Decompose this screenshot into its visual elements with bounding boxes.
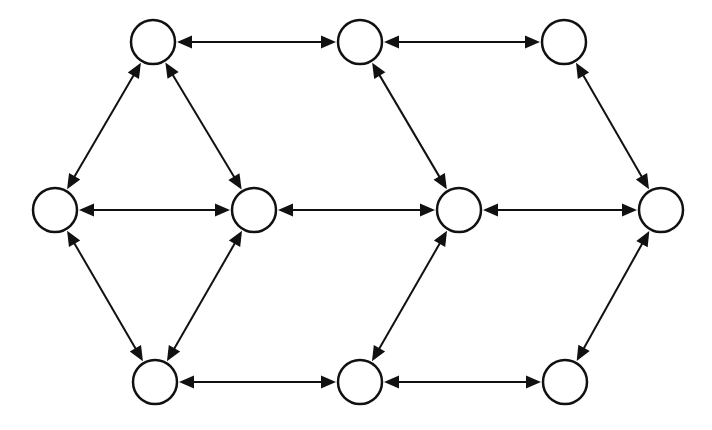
- arrowhead-icon: [128, 63, 141, 79]
- edge-line: [172, 74, 235, 179]
- arrowhead-icon: [483, 204, 498, 217]
- arrowhead-icon: [636, 231, 649, 247]
- edge-n4-n5: [79, 204, 230, 217]
- edge-line: [74, 242, 137, 350]
- edge-n3-n7: [576, 63, 649, 189]
- edge-n1-n2: [177, 36, 336, 49]
- arrowhead-icon: [525, 36, 540, 49]
- edge-line: [173, 242, 235, 350]
- network-diagram: [0, 0, 712, 430]
- node-n8: [133, 360, 177, 404]
- node-n4: [33, 188, 77, 232]
- edge-line: [74, 74, 135, 178]
- arrowhead-icon: [321, 376, 336, 389]
- arrowhead-icon: [384, 36, 399, 49]
- arrowhead-icon: [167, 345, 180, 361]
- edge-line: [583, 74, 643, 178]
- edge-n5-n8: [167, 231, 242, 361]
- edge-n2-n3: [384, 36, 540, 49]
- arrowhead-icon: [215, 204, 230, 217]
- edge-line: [379, 74, 440, 178]
- edge-n5-n6: [278, 204, 435, 217]
- arrowhead-icon: [576, 63, 589, 79]
- arrowhead-icon: [229, 231, 242, 247]
- arrowhead-icon: [321, 36, 336, 49]
- edge-n4-n8: [67, 231, 143, 362]
- node-n1: [131, 20, 175, 64]
- arrowhead-icon: [67, 231, 80, 247]
- edge-line: [583, 242, 643, 349]
- node-n2: [338, 20, 382, 64]
- arrowhead-icon: [228, 173, 241, 189]
- arrowhead-icon: [434, 173, 447, 189]
- edge-n6-n7: [483, 204, 637, 217]
- edge-n7-n10: [577, 231, 650, 361]
- arrowhead-icon: [179, 376, 194, 389]
- node-n5: [232, 188, 276, 232]
- node-n6: [437, 188, 481, 232]
- node-n7: [639, 188, 683, 232]
- edge-n6-n9: [372, 231, 447, 361]
- arrowhead-icon: [622, 204, 637, 217]
- arrowhead-icon: [372, 63, 385, 79]
- arrowhead-icon: [79, 204, 94, 217]
- arrowhead-icon: [67, 173, 80, 189]
- node-n9: [338, 360, 382, 404]
- arrowhead-icon: [130, 345, 143, 361]
- edge-n1-n5: [165, 63, 241, 190]
- edge-line: [378, 242, 440, 350]
- edge-n8-n9: [179, 376, 336, 389]
- arrowhead-icon: [420, 204, 435, 217]
- arrowhead-icon: [636, 173, 649, 189]
- arrowhead-icon: [278, 204, 293, 217]
- node-n10: [543, 360, 587, 404]
- edges-layer: [67, 36, 649, 389]
- arrowhead-icon: [577, 345, 590, 361]
- arrowhead-icon: [526, 376, 541, 389]
- arrowhead-icon: [372, 345, 385, 361]
- edge-n1-n4: [67, 63, 141, 190]
- arrowhead-icon: [177, 36, 192, 49]
- edge-n2-n6: [372, 63, 447, 190]
- edge-n9-n10: [384, 376, 541, 389]
- node-n3: [542, 20, 586, 64]
- arrowhead-icon: [165, 63, 178, 79]
- arrowhead-icon: [434, 231, 447, 247]
- arrowhead-icon: [384, 376, 399, 389]
